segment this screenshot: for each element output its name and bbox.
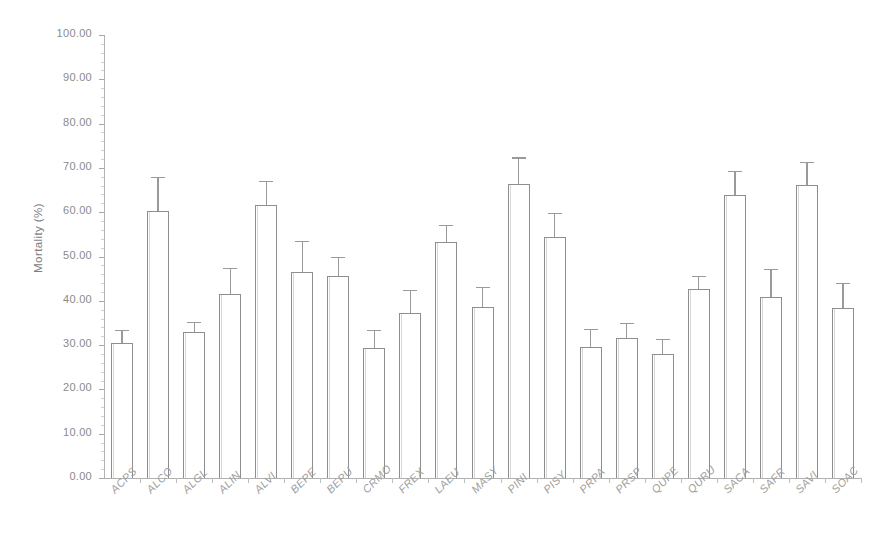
error-bar-stem [590, 329, 591, 347]
bar-shade [762, 298, 763, 478]
x-tick-mark [717, 478, 718, 483]
error-bar-cap [439, 225, 453, 226]
error-bar-stem [302, 241, 303, 272]
bar-pisy [544, 237, 566, 478]
x-tick-mark [176, 478, 177, 483]
x-tick-mark [537, 478, 538, 483]
bar-alvi [255, 205, 277, 478]
error-bar-cap [331, 257, 345, 258]
bar-algl [183, 332, 205, 478]
x-tick-mark [140, 478, 141, 483]
bar-group [291, 35, 313, 478]
error-bar-stem [410, 290, 411, 313]
bar-pini [508, 184, 530, 478]
error-bar-cap [403, 290, 417, 291]
bar-shade [437, 243, 438, 478]
x-tick-mark [573, 478, 574, 483]
bar-group [219, 35, 241, 478]
error-bar-cap [656, 339, 670, 340]
bar-bepu [327, 276, 349, 478]
y-axis-title: Mortality (%) [32, 138, 44, 338]
error-bar-stem [121, 330, 122, 343]
error-bar-stem [842, 283, 843, 308]
bar-qupe [652, 354, 674, 478]
error-bar-stem [518, 157, 519, 184]
bar-frex [399, 313, 421, 478]
x-tick-mark [392, 478, 393, 483]
bar-masy [472, 307, 494, 478]
bar-group [760, 35, 782, 478]
bar-saca [724, 195, 746, 478]
bar-safr [760, 297, 782, 478]
bar-group [796, 35, 818, 478]
y-tick-label: 80.00 [63, 116, 92, 128]
x-tick-mark [356, 478, 357, 483]
x-tick-mark [645, 478, 646, 483]
error-bar-stem [662, 339, 663, 355]
x-tick-mark [501, 478, 502, 483]
error-bar-stem [626, 323, 627, 339]
bar-group [147, 35, 169, 478]
y-tick-label: 30.00 [63, 337, 92, 349]
bar-prsp [616, 338, 638, 478]
error-bar-stem [770, 269, 771, 297]
error-bar-stem [554, 213, 555, 236]
error-bar-stem [157, 177, 158, 211]
bar-shade [546, 238, 547, 478]
bar-shade [113, 344, 114, 478]
bar-laeu [435, 242, 457, 478]
y-tick-label: 0.00 [69, 470, 92, 482]
error-bar-cap [620, 323, 634, 324]
bar-savi [796, 185, 818, 478]
bar-shade [510, 185, 511, 478]
error-bar-cap [187, 322, 201, 323]
y-tick-mark [99, 478, 105, 479]
error-bar-cap [151, 177, 165, 178]
x-tick-mark [212, 478, 213, 483]
bar-shade [365, 349, 366, 478]
error-bar-stem [230, 268, 231, 294]
error-bar-cap [476, 287, 490, 288]
plot-area [104, 35, 861, 478]
bar-shade [257, 206, 258, 478]
y-tick-label: 40.00 [63, 293, 92, 305]
error-bar-cap [584, 329, 598, 330]
x-tick-mark [320, 478, 321, 483]
x-tick-mark [753, 478, 754, 483]
error-bar-cap [836, 283, 850, 284]
bar-shade [798, 186, 799, 478]
y-tick-label: 90.00 [63, 71, 92, 83]
x-tick-mark [284, 478, 285, 483]
mortality-bar-chart: Mortality (%) 100.0090.0080.0070.0060.00… [0, 0, 891, 556]
bar-group [832, 35, 854, 478]
error-bar-stem [446, 225, 447, 243]
error-bar-stem [698, 276, 699, 289]
bar-shade [474, 308, 475, 478]
y-tick-label: 100.00 [57, 27, 92, 39]
error-bar-cap [512, 157, 526, 158]
bar-shade [185, 333, 186, 478]
x-tick-mark [248, 478, 249, 483]
y-tick-label: 50.00 [63, 249, 92, 261]
x-tick-mark [609, 478, 610, 483]
bar-shade [293, 273, 294, 478]
bar-group [363, 35, 385, 478]
error-bar-cap [728, 171, 742, 172]
error-bar-cap [115, 330, 129, 331]
bar-group [580, 35, 602, 478]
error-bar-stem [734, 171, 735, 196]
bar-shade [582, 348, 583, 478]
error-bar-stem [482, 287, 483, 307]
bar-bepe [291, 272, 313, 478]
y-tick-label: 20.00 [63, 381, 92, 393]
x-tick-mark [428, 478, 429, 483]
error-bar-cap [295, 241, 309, 242]
error-bar-stem [806, 162, 807, 185]
bar-alin [219, 294, 241, 478]
bar-group [111, 35, 133, 478]
bar-shade [149, 212, 150, 478]
error-bar-cap [367, 330, 381, 331]
error-bar-stem [266, 181, 267, 204]
bar-group [616, 35, 638, 478]
y-tick-label: 10.00 [63, 426, 92, 438]
